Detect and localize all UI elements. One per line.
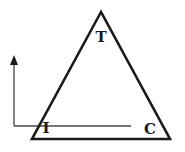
arrow-up-icon [10, 55, 18, 65]
tic-triangle-diagram: T I C [0, 0, 185, 152]
vertex-label-bottom-left: I [42, 119, 49, 137]
vertex-label-bottom-right: C [144, 120, 156, 138]
vertex-label-top: T [95, 28, 107, 46]
